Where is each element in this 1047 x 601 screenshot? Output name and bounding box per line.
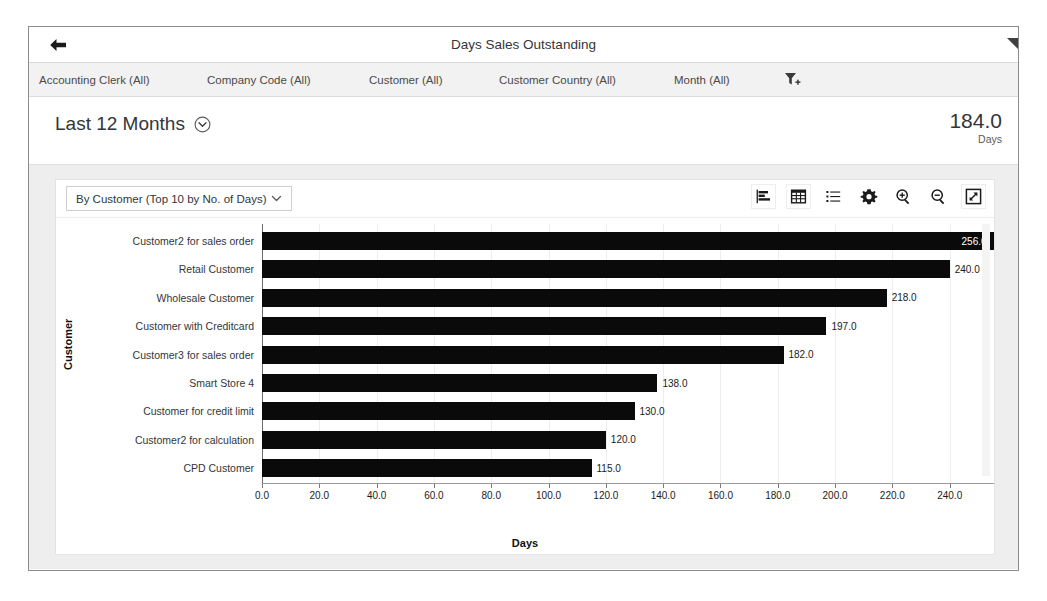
bar[interactable] — [262, 317, 826, 335]
zoom-out-icon — [930, 188, 947, 205]
bar-chart-icon — [755, 188, 772, 205]
x-tick-label: 220.0 — [880, 490, 905, 501]
bar-value-label: 197.0 — [831, 321, 856, 332]
bar[interactable] — [262, 459, 592, 477]
bar-value-label: 218.0 — [892, 292, 917, 303]
bar-category-label: Customer with Creditcard — [56, 320, 254, 332]
view-select[interactable]: By Customer (Top 10 by No. of Days) — [66, 186, 292, 211]
page-title: Days Sales Outstanding — [29, 27, 1018, 63]
bar-chart-button[interactable] — [751, 184, 776, 209]
bar[interactable] — [262, 260, 950, 278]
x-tick — [663, 484, 664, 488]
x-tick-label: 60.0 — [424, 490, 443, 501]
filter-add-button[interactable] — [784, 72, 801, 87]
bar-category-label: Customer2 for calculation — [56, 434, 254, 446]
chevron-down-icon — [270, 192, 283, 205]
bar-row[interactable]: CPD Customer115.0 — [56, 455, 994, 481]
bar-row[interactable]: Customer for credit limit130.0 — [56, 398, 994, 424]
bar-category-label: Smart Store 4 — [56, 377, 254, 389]
chart-card-area: By Customer (Top 10 by No. of Days) — [29, 165, 1018, 569]
filter-customer-country[interactable]: Customer Country (All) — [499, 74, 674, 86]
bar-value-label: 138.0 — [662, 378, 687, 389]
bar-row[interactable]: Customer2 for calculation120.0 — [56, 427, 994, 453]
title-bar: Days Sales Outstanding — [29, 27, 1018, 63]
x-tick — [377, 484, 378, 488]
filter-customer[interactable]: Customer (All) — [369, 74, 499, 86]
kpi-header: Last 12 Months 184.0 Days — [29, 97, 1018, 165]
bar-value-label: 130.0 — [640, 406, 665, 417]
chart-card: By Customer (Top 10 by No. of Days) — [55, 179, 995, 555]
x-tick — [606, 484, 607, 488]
bar[interactable] — [262, 402, 635, 420]
x-tick — [319, 484, 320, 488]
bar-category-label: Customer2 for sales order — [56, 235, 254, 247]
x-tick-label: 20.0 — [310, 490, 329, 501]
table-grid-icon — [790, 188, 807, 205]
x-tick-label: 0.0 — [255, 490, 269, 501]
bar-row[interactable]: Smart Store 4138.0 — [56, 370, 994, 396]
corner-triangle-icon — [1007, 38, 1018, 49]
bar[interactable] — [262, 289, 887, 307]
legend-list-icon — [825, 188, 842, 205]
filter-bar: Accounting Clerk (All) Company Code (All… — [29, 63, 1018, 97]
kpi-unit: Days — [949, 133, 1002, 146]
kpi-title-group[interactable]: Last 12 Months — [55, 113, 211, 135]
x-tick — [549, 484, 550, 488]
bar-value-label: 240.0 — [955, 264, 980, 275]
x-tick — [262, 484, 263, 488]
x-tick-label: 200.0 — [823, 490, 848, 501]
plot-area: Customer Customer2 for sales order256.0R… — [56, 218, 994, 554]
fullscreen-button[interactable] — [961, 184, 986, 209]
x-tick — [892, 484, 893, 488]
bars-layer: Customer2 for sales order256.0Retail Cus… — [56, 218, 994, 554]
bar-category-label: Customer3 for sales order — [56, 349, 254, 361]
x-tick — [835, 484, 836, 488]
x-tick — [720, 484, 721, 488]
filter-company-code[interactable]: Company Code (All) — [207, 74, 369, 86]
kpi-value: 184.0 — [949, 109, 1002, 133]
bar-value-label: 115.0 — [597, 463, 621, 474]
zoom-in-icon — [895, 188, 912, 205]
x-tick — [434, 484, 435, 488]
x-tick-label: 160.0 — [708, 490, 733, 501]
filter-month[interactable]: Month (All) — [674, 74, 784, 86]
kpi-title: Last 12 Months — [55, 113, 185, 135]
legend-button[interactable] — [821, 184, 846, 209]
zoom-in-button[interactable] — [891, 184, 916, 209]
bar-row[interactable]: Customer3 for sales order182.0 — [56, 342, 994, 368]
bar-row[interactable]: Customer with Creditcard197.0 — [56, 313, 994, 339]
filter-accounting-clerk[interactable]: Accounting Clerk (All) — [39, 74, 207, 86]
x-tick-label: 40.0 — [367, 490, 386, 501]
bar-row[interactable]: Customer2 for sales order256.0 — [56, 228, 994, 254]
bar-category-label: Wholesale Customer — [56, 292, 254, 304]
bar[interactable] — [262, 374, 657, 392]
fullscreen-icon — [965, 188, 982, 205]
bar[interactable] — [262, 346, 784, 364]
bar-row[interactable]: Wholesale Customer218.0 — [56, 285, 994, 311]
x-tick — [950, 484, 951, 488]
x-tick-label: 240.0 — [937, 490, 962, 501]
kpi-value-group: 184.0 Days — [949, 109, 1002, 146]
x-tick-label: 100.0 — [536, 490, 561, 501]
bar-category-label: CPD Customer — [56, 462, 254, 474]
settings-button[interactable] — [856, 184, 881, 209]
bar-row[interactable]: Retail Customer240.0 — [56, 256, 994, 282]
bar-value-label: 120.0 — [611, 434, 636, 445]
circle-chevron-down-icon[interactable] — [194, 116, 211, 133]
bar[interactable] — [262, 431, 606, 449]
view-select-label: By Customer (Top 10 by No. of Days) — [76, 193, 266, 205]
x-tick-label: 180.0 — [765, 490, 790, 501]
bar[interactable] — [262, 232, 994, 250]
plot-vertical-scrollbar[interactable] — [982, 224, 990, 476]
x-tick-label: 140.0 — [651, 490, 676, 501]
zoom-out-button[interactable] — [926, 184, 951, 209]
bar-category-label: Retail Customer — [56, 263, 254, 275]
filter-add-icon — [784, 72, 801, 87]
table-view-button[interactable] — [786, 184, 811, 209]
x-tick-label: 120.0 — [593, 490, 618, 501]
bar-value-label: 182.0 — [789, 349, 814, 360]
x-tick-label: 80.0 — [481, 490, 500, 501]
settings-gear-icon — [860, 188, 878, 206]
x-tick — [778, 484, 779, 488]
application-window: Days Sales Outstanding Accounting Clerk … — [28, 26, 1019, 571]
